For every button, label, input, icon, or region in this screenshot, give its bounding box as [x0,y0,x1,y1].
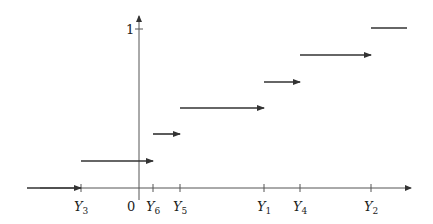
x-tick-label: Y4 [293,199,308,216]
x-tick-label: Y5 [173,199,188,216]
x-tick-label: Y3 [74,199,89,216]
x-tick-label: Y6 [146,199,161,216]
y-tick-label-1: 1 [126,22,134,37]
origin-label: 0 [127,199,135,214]
step-chart: 1 0 Y3Y6Y5Y1Y4Y2 [0,0,433,224]
step-segments [27,28,407,188]
x-tick-label: Y2 [364,199,378,216]
x-ticks: Y3Y6Y5Y1Y4Y2 [74,184,378,216]
x-tick-label: Y1 [257,199,271,216]
